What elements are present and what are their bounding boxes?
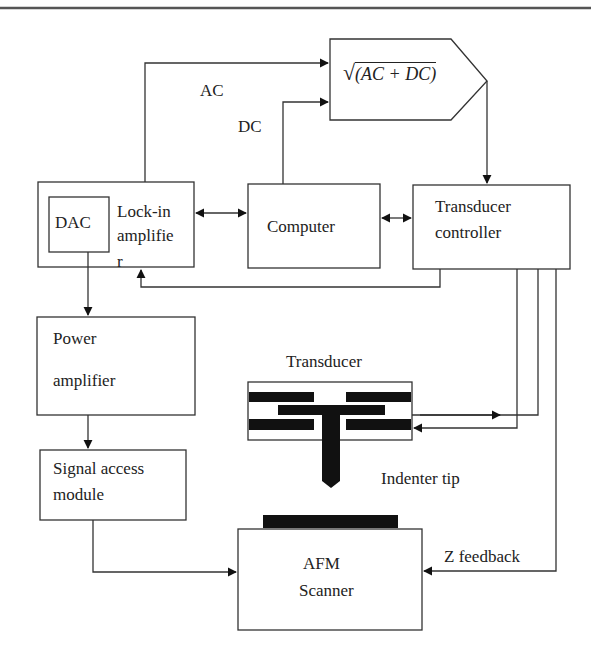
z-feedback-label: Z feedback [444, 546, 520, 567]
lockin-label-2: amplifie [117, 225, 174, 247]
dc-signal-line [283, 102, 328, 184]
indenter-tip-shape [322, 410, 340, 488]
controller-lockin-feedback-line [141, 269, 440, 287]
controller-label-1: Transducer [435, 196, 511, 218]
controller-label-2: controller [435, 222, 501, 244]
indenter-tip-label: Indenter tip [381, 468, 460, 489]
z-feedback-line [424, 269, 556, 571]
power-amp-label-1: Power [53, 328, 96, 350]
controller-transducer-out-line [412, 269, 538, 415]
signal-access-label-1: Signal access [53, 458, 144, 480]
computer-label: Computer [267, 216, 335, 238]
transducer-bottom-plate-right [346, 419, 411, 430]
signal-afm-line [93, 520, 236, 572]
lockin-label-3: r [117, 251, 123, 273]
dac-label: DAC [55, 212, 91, 234]
afm-label-1: AFM [303, 553, 340, 575]
power-amp-label-2: amplifier [53, 370, 115, 392]
sqrt-formula-label: √(AC + DC) [343, 60, 436, 86]
transducer-top-plate-right [346, 392, 411, 402]
transducer-sense-line [414, 269, 517, 428]
signal-access-label-2: module [53, 484, 104, 506]
ac-label: AC [200, 80, 224, 101]
sample [263, 515, 398, 528]
transducer-top-plate-left [249, 392, 314, 402]
dc-label: DC [238, 116, 262, 137]
lockin-label-1: Lock-in [117, 201, 171, 223]
afm-label-2: Scanner [299, 580, 354, 602]
ac-signal-line [145, 63, 328, 182]
transducer-bottom-plate-left [249, 419, 314, 430]
transducer-label: Transducer [286, 351, 362, 372]
